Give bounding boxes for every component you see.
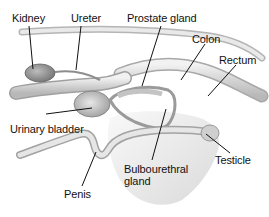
label-colon: Colon: [192, 33, 220, 45]
label-bulbourethral-line2: gland: [124, 175, 150, 187]
label-ureter: Ureter: [71, 12, 101, 24]
label-penis: Penis: [64, 188, 91, 200]
leader-prostate: [142, 26, 161, 86]
label-bulbourethral-line1: Bulbourethral: [124, 163, 188, 175]
label-urinary-bladder: Urinary bladder: [10, 123, 84, 135]
scrotum-shading: [108, 111, 219, 205]
urinary-bladder-shape: [74, 91, 110, 117]
kidney-shape: [25, 64, 55, 82]
testicle-shape: [201, 125, 219, 141]
label-rectum: Rectum: [219, 54, 256, 66]
leader-penis: [82, 152, 96, 186]
label-kidney: Kidney: [12, 12, 45, 24]
label-prostate-gland: Prostate gland: [127, 12, 197, 24]
label-testicle: Testicle: [215, 154, 251, 166]
anatomy-diagram: Kidney Ureter Prostate gland Colon Rectu…: [0, 0, 269, 217]
